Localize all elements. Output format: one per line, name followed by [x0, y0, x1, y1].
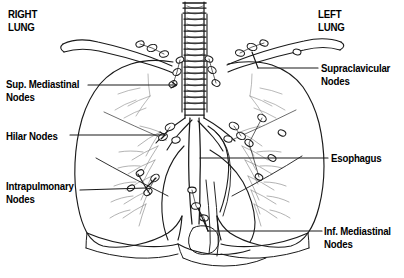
- left-lung-vessels-upper: [250, 74, 285, 118]
- trachea-icon: [182, 2, 207, 118]
- label-right-lung: RIGHT LUNG: [8, 8, 37, 33]
- label-hilar-nodes: Hilar Nodes: [6, 130, 58, 143]
- label-intrapulmonary-nodes: Intrapulmonary Nodes: [6, 180, 74, 205]
- right-lung-vessels-upper: [115, 74, 150, 118]
- label-supraclavicular-nodes: Supraclavicular Nodes: [321, 62, 390, 87]
- label-left-lung: LEFT LUNG: [318, 8, 345, 33]
- right-lung-icon: [75, 60, 182, 258]
- leader-intrapulmonary: [80, 188, 146, 190]
- label-inf-mediastinal-nodes: Inf. Mediastinal Nodes: [324, 225, 391, 250]
- lung-lymph-node-diagram: RIGHT LUNG LEFT LUNG Sup. Mediastinal No…: [0, 0, 404, 278]
- label-esophagus: Esophagus: [331, 152, 381, 165]
- label-sup-mediastinal-nodes: Sup. Mediastinal Nodes: [6, 78, 79, 103]
